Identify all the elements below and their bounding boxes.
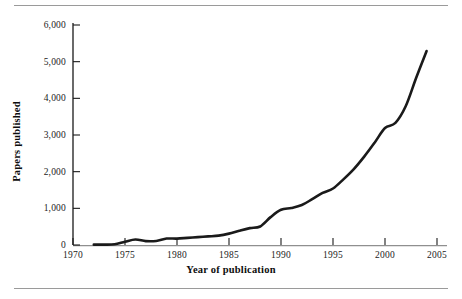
y-axis-tick-label: 3,000 [22, 130, 66, 140]
y-axis-tick-label: 6,000 [22, 20, 66, 30]
x-axis-tick-label: 2000 [375, 250, 395, 260]
figure-container: 01,0002,0003,0004,0005,0006,000 19701975… [0, 0, 462, 299]
x-axis-tick-label: 1970 [63, 250, 83, 260]
y-axis-tick-label: 1,000 [22, 203, 66, 213]
y-axis-tick-label: 2,000 [22, 167, 66, 177]
y-axis-ticks [73, 25, 80, 245]
y-axis-tick-label: 4,000 [22, 93, 66, 103]
x-axis-tick-label: 1975 [115, 250, 135, 260]
x-axis-tick-label: 1980 [167, 250, 187, 260]
data-series-line [94, 51, 427, 245]
x-axis-tick-label: 1990 [271, 250, 291, 260]
x-axis-tick-label: 1995 [323, 250, 343, 260]
y-axis-tick-label: 5,000 [22, 57, 66, 67]
x-axis-tick-label: 1985 [219, 250, 239, 260]
x-axis-title: Year of publication [0, 264, 462, 275]
x-axis-tick-label: 2005 [427, 250, 447, 260]
y-axis-title: Papers published [11, 82, 22, 202]
y-axis-tick-label: 0 [22, 240, 66, 250]
